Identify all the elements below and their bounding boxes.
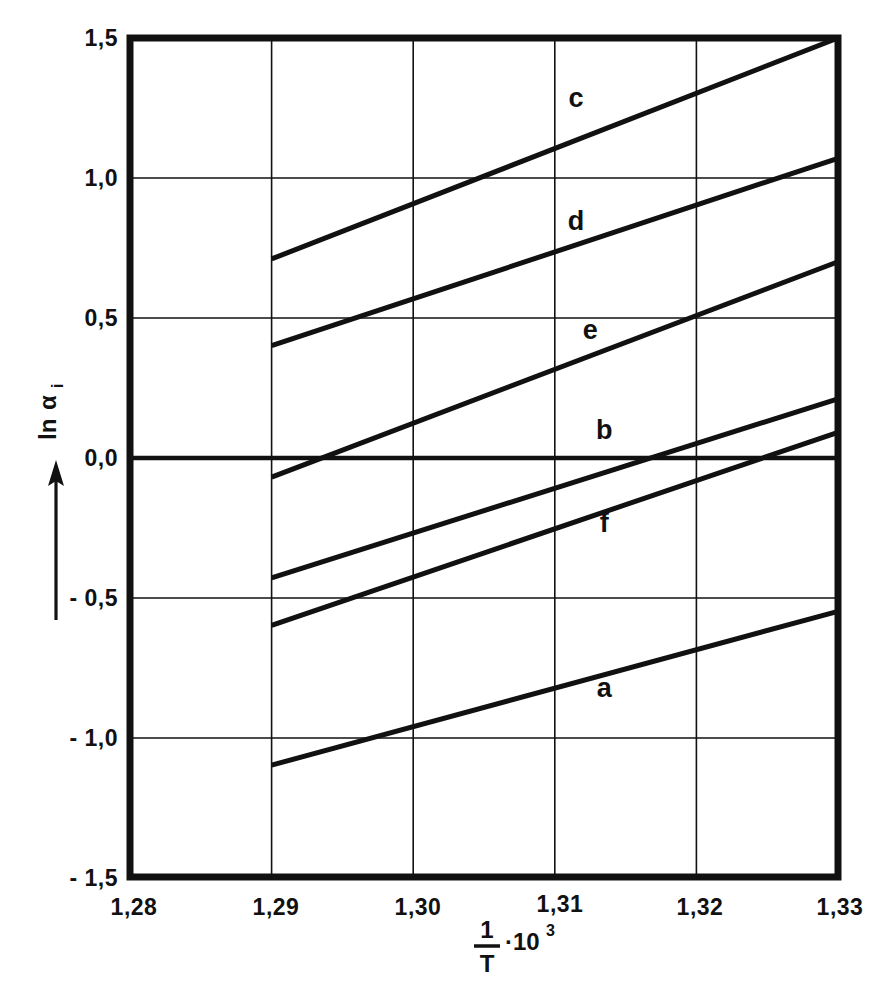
y-axis-symbol: α	[34, 395, 61, 410]
y-tick-label-1.0: 1,0	[85, 165, 118, 191]
series-label-e: e	[583, 315, 598, 345]
y-tick-label-neg1.0: - 1,0	[69, 725, 118, 751]
x-tick-label-1.31: 1,31	[537, 891, 584, 917]
y-axis-subscript: i	[49, 384, 66, 388]
chart-figure: c d e b f a 1,5 1,0 0,5 0,0 - 0,5 - 1,0 …	[0, 0, 883, 990]
y-axis-title: ln α i	[34, 384, 66, 440]
y-axis-tick-labels: 1,5 1,0 0,5 0,0 - 0,5 - 1,0 - 1,5	[69, 25, 118, 891]
series-label-f: f	[600, 508, 610, 538]
y-tick-label-0.5: 0,5	[85, 305, 118, 331]
horizontal-gridlines	[130, 178, 838, 738]
y-tick-label-neg0.5: - 0,5	[69, 585, 118, 611]
series-labels-group: c d e b f a	[568, 83, 613, 703]
y-tick-label-0.0: 0,0	[85, 445, 118, 471]
y-axis-prefix: ln	[34, 419, 61, 440]
series-label-c: c	[569, 83, 584, 113]
y-axis-arrow-icon	[48, 460, 64, 620]
y-tick-label-neg1.5: - 1,5	[69, 865, 118, 891]
x-tick-label-1.30: 1,30	[395, 894, 442, 920]
x-tick-label-1.33: 1,33	[817, 894, 864, 920]
x-axis-exponent: 3	[546, 922, 555, 939]
x-tick-label-1.29: 1,29	[253, 894, 300, 920]
x-axis-numerator: 1	[480, 916, 493, 943]
series-label-d: d	[568, 206, 585, 236]
x-tick-label-1.28: 1,28	[111, 894, 158, 920]
x-axis-multiplier: ·10	[505, 928, 540, 955]
x-axis-denominator: T	[480, 950, 495, 977]
arrhenius-plot: c d e b f a 1,5 1,0 0,5 0,0 - 0,5 - 1,0 …	[0, 0, 883, 990]
y-tick-label-1.5: 1,5	[85, 25, 118, 51]
series-label-b: b	[596, 415, 613, 445]
x-tick-label-1.32: 1,32	[677, 894, 724, 920]
series-label-a: a	[597, 673, 613, 703]
x-axis-title: 1 T ·10 3	[474, 916, 555, 977]
